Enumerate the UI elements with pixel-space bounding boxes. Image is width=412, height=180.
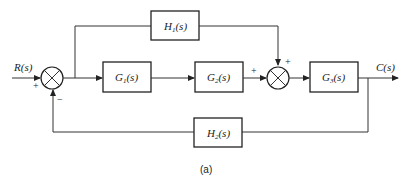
output-label: C(s) — [376, 61, 395, 74]
block-diagram: R(s) + − H1(s) G1(s) G2(s) + + — [0, 0, 412, 180]
s2-plus-sign-top: + — [285, 56, 291, 67]
block-g3: G3(s) — [310, 62, 358, 92]
block-g2: G2(s) — [195, 62, 243, 92]
h1-to-s2-line — [199, 26, 278, 65]
svg-text:G3(s): G3(s) — [322, 71, 345, 85]
input-label: R(s) — [13, 61, 33, 74]
h2-to-s1-feedback-line — [53, 90, 194, 132]
svg-text:G2(s): G2(s) — [207, 71, 230, 85]
summing-junction-2 — [267, 67, 289, 89]
block-h2: H2(s) — [194, 118, 242, 147]
svg-text:G1(s): G1(s) — [115, 71, 138, 85]
s1-minus-sign: − — [57, 94, 63, 105]
s2-plus-sign-left: + — [251, 65, 257, 76]
figure-caption: (a) — [200, 164, 212, 175]
block-h1: H1(s) — [151, 11, 199, 40]
block-g1: G1(s) — [103, 62, 151, 92]
svg-text:H2(s): H2(s) — [206, 127, 230, 141]
s1-plus-sign: + — [33, 80, 39, 91]
summing-junction-1 — [41, 67, 63, 89]
svg-text:H1(s): H1(s) — [163, 20, 187, 34]
